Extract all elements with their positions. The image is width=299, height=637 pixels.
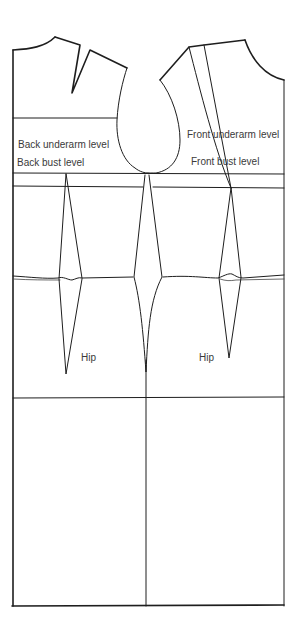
front-neckline <box>245 40 284 80</box>
bust-line-upper <box>13 173 284 174</box>
back-underarm-level-label: Back underarm level <box>18 140 109 150</box>
side-seam-dart <box>134 175 162 372</box>
back-shoulder-dart <box>55 37 127 93</box>
front-bust-level-label: Front bust level <box>191 157 259 167</box>
pattern-diagram <box>0 0 299 637</box>
back-piece <box>13 37 148 606</box>
bust-line-lower-back <box>13 186 143 187</box>
waist-line-front-2 <box>220 279 284 281</box>
front-piece <box>148 40 284 606</box>
back-neckline <box>13 37 55 50</box>
front-shoulder <box>160 40 245 80</box>
bust-line-lower-front <box>153 187 284 188</box>
back-waist-dart <box>59 174 82 374</box>
back-bust-level-label: Back bust level <box>17 158 84 168</box>
hip-line <box>13 397 284 398</box>
hem-line <box>12 605 284 606</box>
hip-label-front: Hip <box>199 353 214 363</box>
front-armhole <box>148 80 180 173</box>
front-underarm-level-label: Front underarm level <box>187 130 279 140</box>
hip-label-back: Hip <box>81 353 96 363</box>
front-waist-dart <box>219 188 241 358</box>
darts <box>59 174 241 606</box>
level-lines <box>12 173 284 606</box>
waist-line-front-1 <box>163 274 284 278</box>
waist-line-back-2 <box>13 279 60 280</box>
back-armhole <box>117 68 148 173</box>
